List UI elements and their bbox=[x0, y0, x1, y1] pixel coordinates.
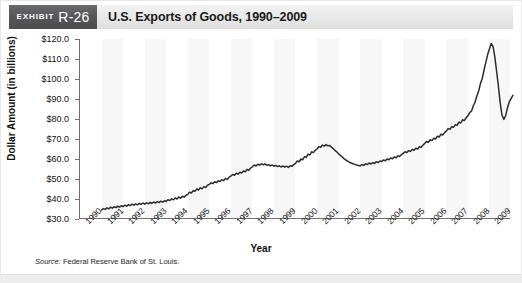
exhibit-label: EXHIBIT bbox=[16, 13, 54, 21]
y-axis-tick-label: $100.0 bbox=[41, 74, 69, 84]
title-bar: U.S. Exports of Goods, 1990–2009 bbox=[97, 5, 513, 29]
source-note: Source: Federal Reserve Bank of St. Loui… bbox=[35, 257, 179, 266]
y-axis-tick-label: $80.0 bbox=[46, 114, 69, 124]
y-axis-tick-label: $70.0 bbox=[46, 134, 69, 144]
bottom-strip bbox=[0, 274, 522, 283]
exhibit-figure: EXHIBIT R-26 U.S. Exports of Goods, 1990… bbox=[0, 0, 522, 283]
y-axis-tick-label: $30.0 bbox=[46, 214, 69, 224]
page-title: U.S. Exports of Goods, 1990–2009 bbox=[108, 10, 307, 24]
exports-line-series bbox=[80, 39, 511, 219]
figure-header: EXHIBIT R-26 U.S. Exports of Goods, 1990… bbox=[9, 5, 513, 31]
exhibit-badge: EXHIBIT R-26 bbox=[9, 5, 97, 29]
y-axis-tick-label: $120.0 bbox=[41, 34, 69, 44]
source-text: Federal Reserve Bank of St. Louis. bbox=[61, 257, 179, 266]
y-axis-tick-labels: $120.0$110.0$100.0$90.0$80.0$70.0$60.0$5… bbox=[0, 31, 79, 227]
x-axis-title: Year bbox=[0, 243, 522, 254]
y-axis-tick-label: $40.0 bbox=[46, 194, 69, 204]
chart-container: Dollar Amount (in billions) $120.0$110.0… bbox=[0, 31, 522, 275]
y-axis-tick-label: $60.0 bbox=[46, 154, 69, 164]
plot-area bbox=[79, 39, 510, 219]
y-axis-tick-label: $110.0 bbox=[42, 54, 69, 64]
y-axis-tick-label: $90.0 bbox=[46, 94, 69, 104]
source-label: Source: bbox=[35, 257, 61, 266]
exhibit-number: R-26 bbox=[58, 10, 89, 24]
y-axis-tick-label: $50.0 bbox=[46, 174, 69, 184]
